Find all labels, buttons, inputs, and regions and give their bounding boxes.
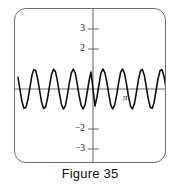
plot-canvas [15,9,165,162]
figure-caption: Figure 35 [0,166,180,181]
ytick-label-minus-3: −3 [67,144,85,154]
ytick-label-3: 3 [71,24,85,34]
figure-container: 3 2 −2 −3 π Figure 35 [0,0,180,190]
ytick-label-2: 2 [71,44,85,54]
pi-axis-label: π [123,93,128,102]
plot-frame: 3 2 −2 −3 π [14,8,166,163]
ytick-label-minus-2: −2 [67,124,85,134]
